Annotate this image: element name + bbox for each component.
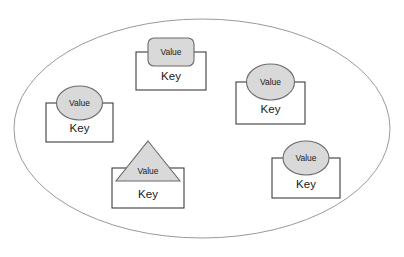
value-label: Value (137, 166, 158, 176)
value-label: Value (295, 153, 316, 163)
key-label: Key (261, 103, 281, 115)
value-label: Value (260, 77, 281, 87)
key-label: Key (138, 188, 158, 200)
value-label: Value (69, 98, 90, 108)
key-label: Key (296, 178, 316, 190)
key-label: Key (161, 70, 181, 82)
key-value-diagram: Key Value Key Value Key Value Key Value (0, 0, 404, 257)
key-label: Key (70, 122, 90, 134)
value-label: Value (160, 47, 181, 57)
diagram-canvas: Key Value Key Value Key Value Key Value (0, 0, 404, 257)
